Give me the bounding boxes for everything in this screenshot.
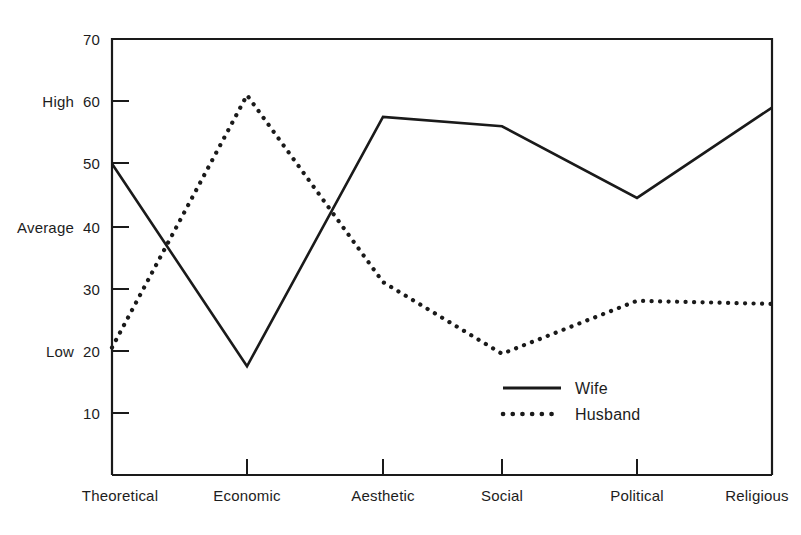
x-axis-ticks <box>247 459 637 475</box>
y-label-50: 50 <box>83 155 100 172</box>
series-line-wife <box>112 108 772 367</box>
y-label-60: 60 <box>83 93 100 110</box>
y-label-20: 20 <box>83 343 100 360</box>
y-qualitative-high: High <box>42 93 74 110</box>
x-label-economic: Economic <box>213 487 281 504</box>
y-axis-ticks <box>112 101 129 413</box>
x-label-social: Social <box>481 487 523 504</box>
y-label-40: 40 <box>83 219 100 236</box>
y-axis-labels: 70 60 50 40 30 20 10 <box>83 31 100 422</box>
chart-svg: 70 60 50 40 30 20 10 High Average Low Th… <box>0 0 801 535</box>
y-qualitative-low: Low <box>46 343 74 360</box>
series-line-husband <box>112 95 772 354</box>
legend-label-wife: Wife <box>575 380 608 397</box>
y-label-30: 30 <box>83 281 100 298</box>
x-axis-labels: Theoretical Economic Aesthetic Social Po… <box>82 487 789 504</box>
chart-legend: Wife Husband <box>503 380 640 423</box>
plot-frame <box>112 39 772 475</box>
line-chart: 70 60 50 40 30 20 10 High Average Low Th… <box>0 0 801 535</box>
legend-label-husband: Husband <box>575 406 640 423</box>
y-qualitative-average: Average <box>17 219 74 236</box>
x-label-religious: Religious <box>725 487 789 504</box>
plot-border <box>112 39 772 475</box>
x-label-aesthetic: Aesthetic <box>351 487 415 504</box>
y-label-10: 10 <box>83 405 100 422</box>
y-axis-qualitative-labels: High Average Low <box>17 93 74 360</box>
series-layer <box>112 95 772 366</box>
x-label-theoretical: Theoretical <box>82 487 158 504</box>
y-label-70: 70 <box>83 31 100 48</box>
x-label-political: Political <box>610 487 664 504</box>
